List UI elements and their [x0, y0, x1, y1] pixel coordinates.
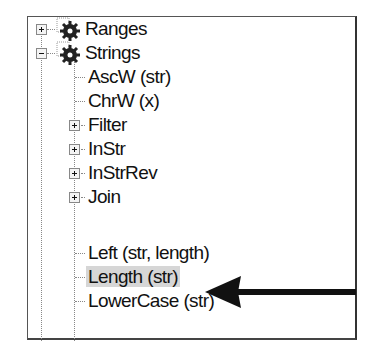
expand-instrrev-button[interactable] — [69, 168, 80, 179]
tree-node-ranges[interactable]: Ranges — [85, 17, 147, 41]
node-label: Filter — [88, 114, 127, 135]
expand-join-button[interactable] — [69, 192, 80, 203]
tree-connector — [75, 77, 85, 78]
tree-node-strings[interactable]: Strings — [85, 41, 140, 65]
tree-connector — [47, 53, 55, 54]
node-label: InStr — [88, 138, 125, 159]
tree-connector — [75, 101, 85, 102]
node-label: AscW (str) — [88, 66, 171, 87]
gear-icon — [56, 41, 80, 65]
node-label: ChrW (x) — [88, 90, 159, 111]
tree-connector — [75, 253, 85, 254]
tree-node-length[interactable]: Length (str) — [86, 265, 180, 289]
expand-filter-button[interactable] — [69, 120, 80, 131]
tree-connector — [81, 173, 85, 174]
tree-node-instr[interactable]: InStr — [88, 137, 125, 161]
tree-node-left[interactable]: Left (str, length) — [88, 241, 209, 265]
tree-connector — [75, 277, 85, 278]
tree-node-lowercase[interactable]: LowerCase (str) — [88, 289, 214, 313]
tree-connector — [41, 29, 42, 341]
gear-icon — [56, 17, 80, 41]
tree-node-chrw[interactable]: ChrW (x) — [88, 89, 159, 113]
expand-ranges-button[interactable] — [36, 24, 47, 35]
node-label-selected: Length (str) — [86, 266, 180, 287]
arrow-annotation-icon — [205, 276, 357, 308]
tree-connector — [81, 197, 85, 198]
node-label: InStrRev — [88, 162, 157, 183]
tree-connector — [81, 149, 85, 150]
collapse-strings-button[interactable] — [36, 48, 47, 59]
node-label: Strings — [85, 42, 140, 63]
tree-connector — [47, 29, 55, 30]
tree-connector — [75, 301, 85, 302]
node-label: LowerCase (str) — [88, 290, 214, 311]
tree-node-join[interactable]: Join — [88, 185, 120, 209]
tree-connector — [81, 125, 85, 126]
node-label: Join — [88, 186, 120, 207]
expand-instr-button[interactable] — [69, 144, 80, 155]
node-label: Ranges — [85, 18, 147, 39]
tree-node-instrrev[interactable]: InStrRev — [88, 161, 157, 185]
tree-node-ascw[interactable]: AscW (str) — [88, 65, 171, 89]
tree-node-filter[interactable]: Filter — [88, 113, 127, 137]
node-label: Left (str, length) — [88, 242, 209, 263]
